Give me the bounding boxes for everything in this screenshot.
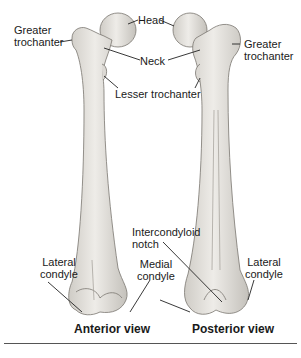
label-line: Greater (244, 38, 294, 50)
anterior-femur (69, 13, 136, 315)
caption-posterior-view: Posterior view (192, 322, 274, 336)
label-head: Head (138, 14, 164, 26)
divider-rule (4, 343, 297, 344)
label-medial-condyle: Medial condyle (137, 258, 175, 282)
label-intercondyloid-notch: Intercondyloid notch (132, 226, 201, 250)
label-line: condyle (137, 270, 175, 282)
label-lesser-trochanter: Lesser trochanter (115, 88, 201, 100)
label-line: condyle (245, 268, 283, 280)
label-line: trochanter (244, 50, 294, 62)
label-line: condyle (40, 268, 78, 280)
caption-anterior-view: Anterior view (74, 322, 150, 336)
label-neck: Neck (140, 55, 165, 67)
label-line: Lateral (245, 256, 283, 268)
label-line: notch (132, 238, 201, 250)
label-line: Greater (14, 24, 64, 36)
label-line: Intercondyloid (132, 226, 201, 238)
label-line: trochanter (14, 36, 64, 48)
femur-diagram: Greater trochanter Head Neck Lesser troc… (0, 0, 301, 358)
label-lateral-condyle-posterior: Lateral condyle (245, 256, 283, 280)
label-lateral-condyle-anterior: Lateral condyle (40, 256, 78, 280)
label-greater-trochanter-posterior: Greater trochanter (244, 38, 294, 62)
label-line: Lateral (40, 256, 78, 268)
posterior-femur (173, 13, 248, 314)
label-line: Medial (137, 258, 175, 270)
label-greater-trochanter-anterior: Greater trochanter (14, 24, 64, 48)
